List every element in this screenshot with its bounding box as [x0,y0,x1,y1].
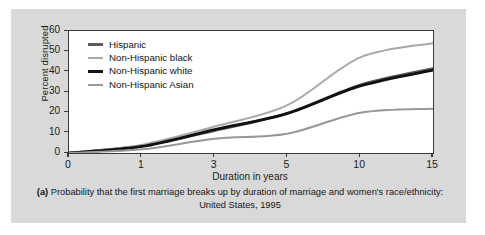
legend-item: Non-Hispanic Asian [88,79,194,90]
y-axis-tick-label: 0 [40,147,60,157]
x-axis-tick-mark [140,153,141,157]
legend-swatch [88,84,103,86]
legend-item: Hispanic [88,39,194,50]
x-axis-tick-mark [67,153,68,157]
y-axis-tick-label: 40 [40,66,60,76]
legend-label: Non-Hispanic white [109,66,192,76]
legend-swatch [88,70,103,73]
x-axis-tick-mark [213,153,214,157]
legend-item: Non-Hispanic white [88,66,194,77]
x-axis-tick-label: 15 [420,159,444,170]
x-axis-tick-label: 0 [56,159,80,170]
legend-label: Non-Hispanic Asian [109,80,194,90]
x-axis-tick-mark [359,153,360,157]
legend-item: Non-Hispanic black [88,52,194,63]
x-axis-tick-mark [431,153,432,157]
y-axis-tick-label: 20 [40,106,60,116]
legend-swatch [88,57,103,59]
figure-caption: (a) Probability that the first marriage … [30,186,450,212]
legend-swatch [88,43,103,45]
x-axis-tick-label: 5 [274,159,298,170]
legend-label: Non-Hispanic black [109,53,192,63]
legend-label: Hispanic [109,40,146,50]
x-axis-label: Duration in years [68,171,432,182]
y-axis-tick-label: 60 [40,25,60,35]
y-axis-tick-label: 50 [40,45,60,55]
figure-container: Percent disrupted 0102030405060 01351015… [0,0,485,235]
chart-legend: HispanicNon-Hispanic blackNon-Hispanic w… [88,39,194,90]
y-axis-tick-label: 10 [40,127,60,137]
series-line [69,109,433,153]
y-axis-tick-label: 30 [40,86,60,96]
x-axis-tick-mark [286,153,287,157]
x-axis-tick-label: 3 [202,159,226,170]
x-axis-tick-label: 1 [129,159,153,170]
caption-label: (a) [37,187,48,197]
caption-line-1: Probability that the first marriage brea… [51,187,345,197]
x-axis-tick-label: 10 [347,159,371,170]
